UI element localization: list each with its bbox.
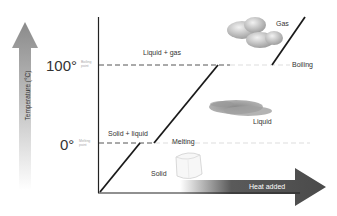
heating-curve-line	[100, 143, 140, 192]
boiling-point-note: Boiling point	[81, 60, 92, 68]
boiling-point-note-line2: point	[81, 64, 92, 68]
label-gas: Gas	[276, 20, 289, 27]
melting-point-note: Melting point	[79, 139, 90, 147]
ice-cube-icon	[176, 153, 202, 179]
label-solid-liquid: Solid + liquid	[108, 130, 148, 137]
tick-label-100: 100°	[46, 57, 77, 74]
heating-curve-diagram	[0, 0, 337, 216]
cloud-icon	[227, 17, 283, 48]
label-liquid-gas: Liquid + gas	[143, 49, 181, 56]
heating-curve-line-liquid	[154, 65, 218, 143]
y-axis-title: Temperature (°C)	[24, 66, 31, 126]
tick-label-0: 0°	[60, 136, 74, 153]
x-axis-title: Heat added	[249, 183, 285, 190]
label-solid: Solid	[151, 170, 167, 177]
label-liquid: Liquid	[253, 118, 272, 125]
melting-point-note-line2: point	[79, 143, 90, 147]
label-melting: Melting	[172, 138, 195, 145]
puddle-icon	[209, 100, 272, 116]
label-boiling: Boiling	[292, 61, 313, 68]
